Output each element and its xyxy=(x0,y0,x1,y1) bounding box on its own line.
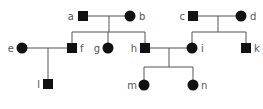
female-affected-circle xyxy=(125,11,136,22)
female-affected-circle xyxy=(187,43,198,54)
female-affected-circle xyxy=(103,43,114,54)
female-affected-circle xyxy=(139,80,150,91)
label-f: f xyxy=(80,43,84,54)
label-i: i xyxy=(201,43,204,54)
male-affected-square xyxy=(140,43,150,53)
individual-c: c xyxy=(180,11,199,22)
female-affected-circle xyxy=(188,80,199,91)
label-c: c xyxy=(180,11,186,22)
individual-l: l xyxy=(37,79,53,90)
individual-h: h xyxy=(131,43,150,54)
label-e: e xyxy=(8,43,14,54)
individual-m: m xyxy=(127,80,149,92)
male-affected-square xyxy=(78,11,88,21)
individual-g: g xyxy=(94,43,114,55)
label-l: l xyxy=(37,79,40,90)
male-affected-square xyxy=(241,43,251,53)
individual-e: e xyxy=(8,43,28,55)
individual-n: n xyxy=(188,80,208,92)
label-b: b xyxy=(139,11,145,22)
male-affected-square xyxy=(43,79,53,89)
label-n: n xyxy=(201,80,207,91)
label-d: d xyxy=(250,11,256,22)
individual-k: k xyxy=(241,43,260,54)
individual-a: a xyxy=(68,11,88,22)
pedigree-diagram: a b c d e f g h i k l m xyxy=(0,0,263,109)
male-affected-square xyxy=(67,43,77,53)
individual-i: i xyxy=(187,43,204,55)
label-a: a xyxy=(68,11,74,22)
individual-d: d xyxy=(236,11,257,23)
male-affected-square xyxy=(188,11,198,21)
individual-b: b xyxy=(125,11,146,23)
label-g: g xyxy=(94,43,100,54)
label-h: h xyxy=(131,43,137,54)
label-m: m xyxy=(127,80,137,91)
female-affected-circle xyxy=(17,43,28,54)
label-k: k xyxy=(254,43,260,54)
individual-f: f xyxy=(67,43,84,54)
female-affected-circle xyxy=(236,11,247,22)
